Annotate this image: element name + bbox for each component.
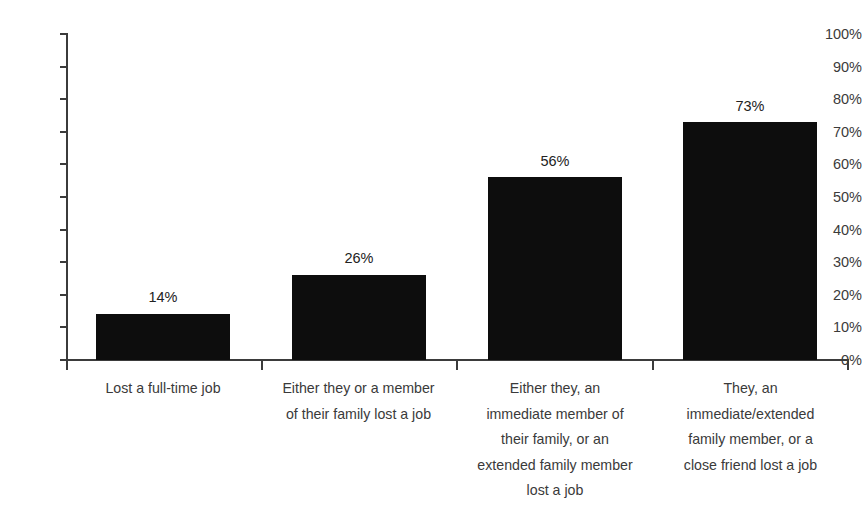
bar-2[interactable] bbox=[488, 177, 622, 360]
bar-chart: 100% 90% 80% 70% 60% 50% 40% 30% 20% 10%… bbox=[0, 0, 862, 509]
category-label-2: Either they, an immediate member of thei… bbox=[451, 376, 659, 504]
bar-value-1: 26% bbox=[292, 251, 426, 266]
bar-value-0: 14% bbox=[96, 290, 230, 305]
y-tick-70 bbox=[60, 131, 67, 133]
plot-area bbox=[67, 34, 848, 360]
y-tick-80 bbox=[60, 98, 67, 100]
category-label-1: Either they or a member of their family … bbox=[256, 376, 461, 427]
y-tick-100 bbox=[60, 33, 67, 35]
bar-0[interactable] bbox=[96, 314, 230, 360]
y-tick-60 bbox=[60, 163, 67, 165]
category-label-3: They, an immediate/extended family membe… bbox=[648, 376, 853, 478]
x-tick-2 bbox=[456, 361, 458, 370]
bar-value-2: 56% bbox=[488, 154, 622, 169]
bar-1[interactable] bbox=[292, 275, 426, 360]
x-tick-4 bbox=[847, 361, 849, 370]
x-tick-3 bbox=[652, 361, 654, 370]
x-tick-0 bbox=[66, 361, 68, 370]
x-tick-1 bbox=[261, 361, 263, 370]
y-tick-20 bbox=[60, 294, 67, 296]
category-label-0: Lost a full-time job bbox=[63, 376, 263, 402]
bar-3[interactable] bbox=[683, 122, 817, 360]
y-tick-90 bbox=[60, 66, 67, 68]
bar-value-3: 73% bbox=[683, 99, 817, 114]
y-tick-40 bbox=[60, 229, 67, 231]
y-tick-10 bbox=[60, 326, 67, 328]
y-tick-30 bbox=[60, 261, 67, 263]
y-tick-50 bbox=[60, 196, 67, 198]
